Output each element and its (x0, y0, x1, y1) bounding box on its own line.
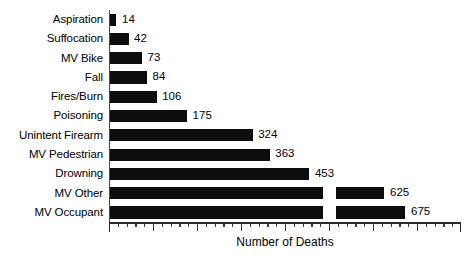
bar-poisoning (110, 110, 187, 122)
axis-break-icon (323, 187, 336, 199)
bar-mv-occupant-segment-left (110, 206, 323, 218)
bar-aspiration (110, 14, 116, 26)
bar-value-label: 175 (193, 108, 212, 123)
category-label: MV Pedestrian (0, 148, 103, 160)
bar-mv-other-segment-left (110, 187, 323, 199)
bar-value-label: 625 (390, 185, 409, 200)
bar-value-label: 84 (153, 69, 166, 84)
category-label: Drowning (0, 167, 103, 179)
category-label: Fall (0, 71, 103, 83)
x-axis-ticks (109, 224, 461, 232)
bar-value-label: 453 (315, 166, 334, 181)
category-label: Poisoning (0, 109, 103, 121)
bar-fires-burn (110, 91, 157, 103)
bar-chart: Aspiration Suffocation MV Bike Fall Fire… (0, 0, 473, 260)
axis-break-icon (323, 206, 336, 218)
axis-end-cap-left (109, 224, 110, 232)
bar-mv-pedestrian (110, 149, 270, 161)
bar-value-label: 73 (148, 50, 161, 65)
bar-mv-occupant-segment-right (336, 206, 405, 218)
category-label: Aspiration (0, 13, 103, 25)
bar-mv-bike (110, 52, 142, 64)
bar-value-label: 14 (122, 12, 135, 27)
bar-suffocation (110, 33, 129, 45)
category-label: Fires/Burn (0, 90, 103, 102)
x-axis-title: Number of Deaths (109, 235, 461, 249)
bar-value-label: 324 (258, 127, 277, 142)
category-axis-labels: Aspiration Suffocation MV Bike Fall Fire… (0, 10, 103, 222)
axis-end-cap-right (460, 224, 461, 232)
bar-value-label: 106 (162, 89, 181, 104)
category-label: Unintent Firearm (0, 129, 103, 141)
bar-unintent-firearm (110, 129, 253, 141)
bar-drowning (110, 168, 309, 180)
category-label: MV Other (0, 187, 103, 199)
plot-area: 14 42 73 84 106 175 324 363 (109, 10, 461, 222)
bar-value-label: 42 (134, 31, 147, 46)
bar-value-label: 675 (411, 204, 430, 219)
category-label: Suffocation (0, 32, 103, 44)
bar-value-label: 363 (275, 146, 294, 161)
bar-fall (110, 71, 147, 83)
bar-mv-other-segment-right (336, 187, 384, 199)
category-label: MV Occupant (0, 206, 103, 218)
category-label: MV Bike (0, 52, 103, 64)
